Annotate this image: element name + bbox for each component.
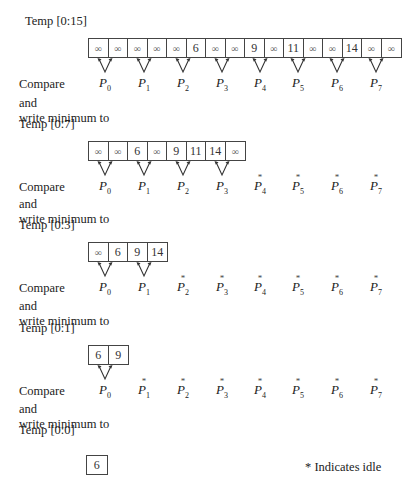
processor-label: P1 xyxy=(129,178,159,196)
processor-label: P6 xyxy=(322,75,352,93)
array-cell: 6 xyxy=(89,346,109,364)
processor-label: P1 xyxy=(129,75,159,93)
compare-label: Compare xyxy=(19,77,65,91)
and-label: and xyxy=(19,197,37,211)
stage-title: Temp [0:7] xyxy=(19,117,75,131)
idle-marker: * xyxy=(178,376,188,386)
temp-array: ∞6914 xyxy=(88,242,168,262)
compare-arrows-icon xyxy=(366,58,386,74)
processor-label: P4 xyxy=(245,75,275,93)
compare-label: Compare xyxy=(19,281,65,295)
array-cell: 9 xyxy=(128,243,148,261)
array-cell: 6 xyxy=(109,243,129,261)
idle-marker: * xyxy=(293,273,303,283)
idle-marker: * xyxy=(371,273,381,283)
array-cell: ∞ xyxy=(226,142,246,160)
compare-arrows-icon xyxy=(173,58,193,74)
array-cell: 6 xyxy=(128,142,148,160)
array-cell: 6 xyxy=(87,456,107,474)
compare-arrows-icon xyxy=(212,58,232,74)
array-cell: ∞ xyxy=(226,39,246,57)
processor-label: P0 xyxy=(90,382,120,400)
idle-marker: * xyxy=(371,172,381,182)
array-cell: ∞ xyxy=(323,39,343,57)
idle-marker: * xyxy=(178,273,188,283)
and-label: and xyxy=(19,96,37,110)
array-cell: 14 xyxy=(206,142,226,160)
stage-title: Temp [0:0] xyxy=(19,423,75,437)
processor-label: P1 xyxy=(129,279,159,297)
idle-marker: * xyxy=(255,376,265,386)
processor-label: P0 xyxy=(90,279,120,297)
array-cell: ∞ xyxy=(89,243,109,261)
and-label: and xyxy=(19,402,37,416)
array-cell: ∞ xyxy=(128,39,148,57)
processor-label: P7 xyxy=(361,75,391,93)
compare-arrows-icon xyxy=(134,262,154,278)
array-cell: 11 xyxy=(284,39,304,57)
array-cell: 14 xyxy=(148,243,168,261)
array-cell: 9 xyxy=(109,346,129,364)
compare-arrows-icon xyxy=(250,58,270,74)
array-cell: ∞ xyxy=(89,39,109,57)
array-cell: ∞ xyxy=(265,39,285,57)
idle-marker: * xyxy=(293,172,303,182)
compare-arrows-icon xyxy=(95,58,115,74)
array-cell: ∞ xyxy=(109,142,129,160)
idle-marker: * xyxy=(217,376,227,386)
array-cell: ∞ xyxy=(382,39,402,57)
idle-marker: * xyxy=(217,273,227,283)
compare-arrows-icon xyxy=(212,161,232,177)
array-cell: 9 xyxy=(245,39,265,57)
idle-marker: * xyxy=(332,273,342,283)
array-cell: ∞ xyxy=(167,39,187,57)
processor-label: P3 xyxy=(207,75,237,93)
temp-array: 69 xyxy=(88,345,129,365)
compare-label: Compare xyxy=(19,180,65,194)
idle-marker: * xyxy=(332,376,342,386)
compare-arrows-icon xyxy=(134,161,154,177)
idle-legend: * Indicates idle xyxy=(305,460,381,475)
compare-arrows-icon xyxy=(173,161,193,177)
idle-marker: * xyxy=(255,172,265,182)
idle-marker: * xyxy=(255,273,265,283)
stage-title: Temp [0:1] xyxy=(19,321,75,335)
and-label: and xyxy=(19,299,37,313)
processor-label: P2 xyxy=(168,75,198,93)
idle-marker: * xyxy=(139,376,149,386)
array-cell: ∞ xyxy=(206,39,226,57)
compare-arrows-icon xyxy=(95,365,115,381)
idle-marker: * xyxy=(371,376,381,386)
compare-label: Compare xyxy=(19,384,65,398)
array-cell: 6 xyxy=(187,39,207,57)
compare-arrows-icon xyxy=(95,262,115,278)
array-cell: 9 xyxy=(167,142,187,160)
processor-label: P5 xyxy=(283,75,313,93)
temp-array: 6 xyxy=(86,455,108,475)
compare-arrows-icon xyxy=(288,58,308,74)
compare-arrows-icon xyxy=(327,58,347,74)
array-cell: 11 xyxy=(187,142,207,160)
processor-label: P2 xyxy=(168,178,198,196)
stage-title: Temp [0:3] xyxy=(19,218,75,232)
compare-arrows-icon xyxy=(134,58,154,74)
temp-array: ∞∞∞∞∞6∞∞9∞11∞∞14∞∞ xyxy=(88,38,402,58)
array-cell: ∞ xyxy=(89,142,109,160)
idle-marker: * xyxy=(332,172,342,182)
processor-label: P0 xyxy=(90,75,120,93)
array-cell: ∞ xyxy=(109,39,129,57)
processor-label: P3 xyxy=(207,178,237,196)
idle-marker: * xyxy=(293,376,303,386)
compare-arrows-icon xyxy=(95,161,115,177)
array-cell: ∞ xyxy=(304,39,324,57)
array-cell: ∞ xyxy=(148,142,168,160)
stage-title: Temp [0:15] xyxy=(25,14,87,28)
processor-label: P0 xyxy=(90,178,120,196)
array-cell: ∞ xyxy=(362,39,382,57)
temp-array: ∞∞6∞91114∞ xyxy=(88,141,246,161)
array-cell: 14 xyxy=(343,39,363,57)
array-cell: ∞ xyxy=(148,39,168,57)
